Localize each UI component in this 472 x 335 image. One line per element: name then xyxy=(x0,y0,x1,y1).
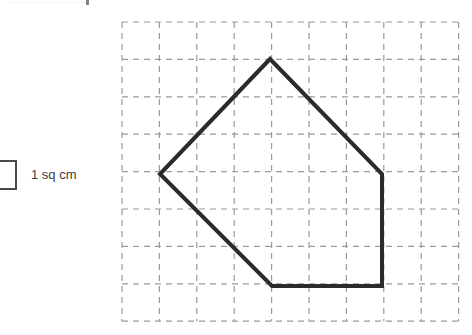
worksheet-canvas: 1 sq cm xyxy=(0,0,472,335)
grid-lines xyxy=(122,22,459,321)
grid-figure xyxy=(0,0,472,335)
